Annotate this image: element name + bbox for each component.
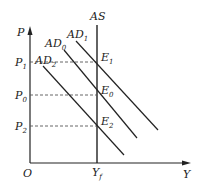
yf-label: Yf	[92, 166, 103, 181]
y-axis-label: P	[16, 26, 25, 39]
x-axis-arrow-icon	[182, 161, 191, 166]
ad-as-diagram: P Y O AS AD1 AD0 AD2 P1 P0 P2 E1 E0 E2 Y…	[0, 0, 201, 186]
p2-label: P2	[14, 120, 27, 135]
as-label: AS	[89, 10, 106, 23]
p0-label: P0	[14, 89, 27, 104]
origin-label: O	[23, 167, 32, 180]
ad1-label: AD1	[66, 28, 88, 43]
e1-label: E1	[100, 51, 114, 66]
x-axis-label: Y	[183, 168, 192, 181]
p1-label: P1	[14, 56, 27, 71]
ad2-label: AD2	[34, 54, 57, 69]
e0-label: E0	[100, 84, 114, 99]
e2-label: E2	[100, 115, 114, 130]
y-axis-arrow-icon	[28, 26, 33, 35]
ad0-label: AD0	[44, 37, 67, 52]
